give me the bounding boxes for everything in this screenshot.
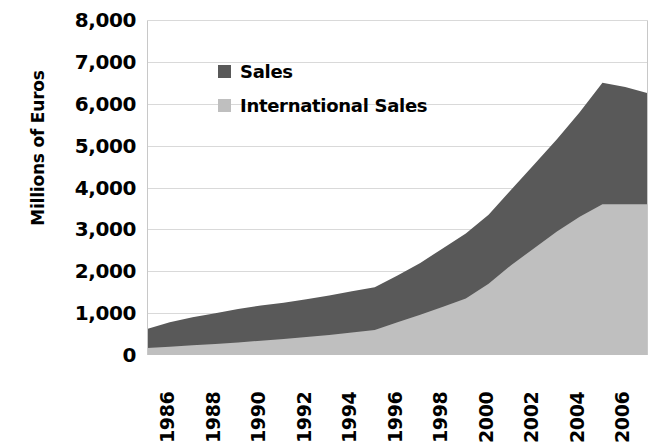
legend-item[interactable]: International Sales [218,90,518,120]
x-axis-tick-label: 2000 [475,363,497,443]
x-axis-tick-label: 1996 [384,363,406,443]
y-axis-tick-label: 7,000 [0,50,136,74]
y-axis-tick-label: 8,000 [0,8,136,32]
chart-legend: SalesInternational Sales [218,56,518,124]
y-axis-tick-label: 3,000 [0,217,136,241]
x-axis-tick-label: 1998 [429,363,451,443]
x-axis-tick-labels: 1986198819901992199419961998200020022004… [147,355,648,448]
y-axis-tick-labels: 8,0007,0006,0005,0004,0003,0002,0001,000… [0,0,140,368]
chart-container: Millions of Euros 8,0007,0006,0005,0004,… [0,0,656,448]
x-axis-tick-label: 1986 [156,363,178,443]
legend-swatch-international-sales [218,99,231,112]
x-axis-tick-label: 2002 [520,363,542,443]
y-axis-tick-label: 6,000 [0,92,136,116]
x-axis-tick-label: 2004 [566,363,588,443]
legend-swatch-sales [218,65,231,78]
y-axis-tick-label: 2,000 [0,259,136,283]
y-axis-tick-label: 1,000 [0,301,136,325]
x-axis-tick-label: 1994 [338,363,360,443]
legend-item-label: Sales [240,61,293,82]
legend-item[interactable]: Sales [218,56,518,86]
x-axis-tick-label: 1990 [247,363,269,443]
y-axis-tick-label: 0 [0,343,136,367]
y-axis-tick-label: 5,000 [0,134,136,158]
x-axis-tick-label: 1992 [293,363,315,443]
x-axis-tick-label: 2006 [611,363,633,443]
y-axis-tick-label: 4,000 [0,176,136,200]
legend-item-label: International Sales [240,95,427,116]
x-axis-tick-label: 1988 [202,363,224,443]
